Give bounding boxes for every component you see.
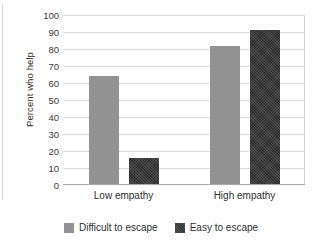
legend-label: Easy to escape	[190, 222, 258, 233]
legend-swatch	[175, 223, 185, 233]
y-axis-tick-label: 20	[48, 146, 59, 157]
y-axis-tick-label: 90	[48, 27, 59, 38]
legend-label: Difficult to escape	[79, 222, 158, 233]
bar	[210, 46, 240, 185]
y-axis-tick-label: 70	[48, 61, 59, 72]
y-axis-tick-labels: 0102030405060708090100	[24, 15, 59, 185]
y-axis-tick-label: 100	[43, 10, 59, 21]
plot-area	[63, 15, 305, 185]
bar-chart-figure: Percent who help 0102030405060708090100 …	[0, 0, 322, 245]
y-axis-tick-label: 30	[48, 129, 59, 140]
bar	[250, 30, 280, 185]
bar	[129, 158, 159, 185]
y-axis-tick-label: 80	[48, 44, 59, 55]
chart-legend: Difficult to escapeEasy to escape	[0, 222, 322, 233]
x-axis-baseline	[63, 184, 305, 186]
y-axis-tick-label: 10	[48, 163, 59, 174]
y-axis-tick-label: 40	[48, 112, 59, 123]
legend-item: Easy to escape	[175, 222, 258, 233]
legend-swatch	[64, 223, 74, 233]
legend-item: Difficult to escape	[64, 222, 158, 233]
x-axis-category-labels: Low empathyHigh empathy	[63, 190, 305, 206]
bar	[89, 76, 119, 185]
y-axis-tick-label: 0	[54, 180, 59, 191]
y-axis-tick-label: 60	[48, 78, 59, 89]
x-axis-category-label: Low empathy	[94, 190, 153, 201]
page-edge-line	[2, 4, 3, 200]
x-axis-category-label: High empathy	[214, 190, 276, 201]
y-axis-tick-label: 50	[48, 95, 59, 106]
gridline	[63, 15, 305, 16]
